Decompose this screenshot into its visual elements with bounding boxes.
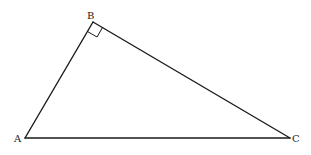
vertex-label-c: C (292, 133, 300, 144)
vertex-label-b: B (87, 10, 94, 21)
triangle-diagram: B A C (0, 0, 311, 155)
edge-ab (25, 22, 93, 138)
edge-bc (93, 22, 290, 138)
vertex-label-a: A (13, 133, 22, 144)
